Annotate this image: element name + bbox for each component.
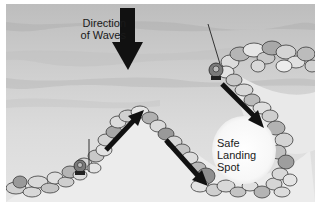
frame-right (315, 0, 320, 209)
direction-of-waves-label: Direction of Waves (76, 17, 126, 41)
waves-label-line1: Direction (76, 17, 126, 29)
breakwater-illustration (0, 0, 320, 209)
safe-label-line3: Spot (217, 161, 267, 173)
safe-label-line1: Safe (217, 137, 267, 149)
safe-label-line2: Landing (217, 149, 267, 161)
frame-left (0, 0, 6, 209)
frame-bottom (0, 202, 320, 209)
safe-landing-spot-label: Safe Landing Spot (217, 137, 267, 173)
waves-label-line2: of Waves (76, 29, 126, 41)
frame-top (0, 0, 320, 4)
